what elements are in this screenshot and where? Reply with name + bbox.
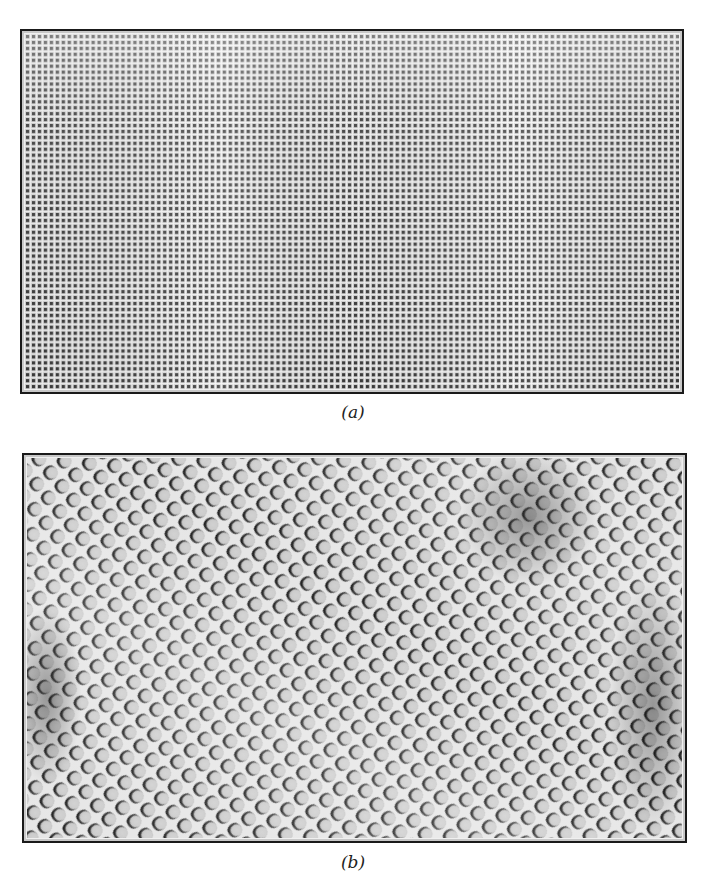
- panel-a-caption: (a): [0, 402, 706, 422]
- panel-b-caption: (b): [0, 852, 706, 872]
- figure-panel-a: [20, 29, 684, 394]
- figure-panel-b: [22, 453, 687, 843]
- panel-b-image: [26, 457, 683, 839]
- panel-a-image: [24, 33, 680, 390]
